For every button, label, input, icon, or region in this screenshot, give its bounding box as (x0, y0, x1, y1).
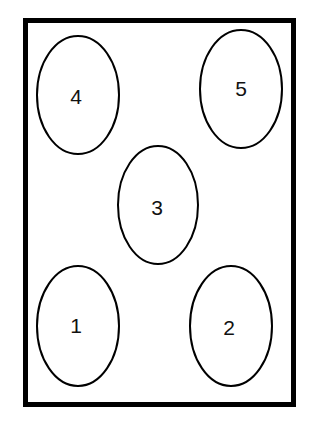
spot-1-label: 1 (70, 314, 82, 337)
spot-5-label: 5 (235, 77, 247, 100)
spot-5: 5 (200, 30, 282, 148)
layout-diagram: 4 5 3 1 2 (0, 0, 314, 427)
spot-2: 2 (190, 266, 272, 386)
spot-3-label: 3 (151, 196, 163, 219)
spot-2-label: 2 (223, 316, 235, 339)
spot-4: 4 (37, 36, 119, 154)
spot-3: 3 (118, 146, 198, 264)
spot-4-label: 4 (70, 85, 82, 108)
spot-1: 1 (37, 266, 119, 386)
